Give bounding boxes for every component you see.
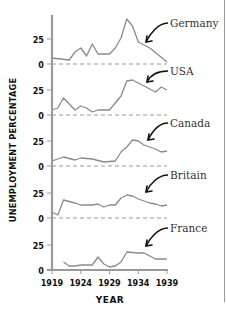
series-label-usa: USA	[170, 65, 194, 77]
y-tick-label: 0	[38, 266, 44, 276]
data-line-britain	[52, 195, 167, 215]
y-tick-label: 25	[33, 189, 45, 199]
y-axis-title: UNEMPLOYMENT PERCENTAGE	[8, 78, 18, 222]
pointer-arrow-icon	[148, 123, 168, 140]
chart-axes: 19191924192919341939YEARUNEMPLOYMENT PER…	[8, 15, 179, 305]
y-tick-label: 25	[33, 86, 45, 96]
y-tick-label: 0	[38, 60, 44, 70]
data-line-canada	[52, 140, 167, 162]
panel-usa: 025USA	[33, 65, 194, 121]
chart-canvas: 025Germany025USA025Canada025Britain025Fr…	[0, 0, 226, 312]
panel-britain: 025Britain	[33, 169, 207, 224]
panel-canada: 025Canada	[33, 117, 211, 172]
unemployment-chart: 025Germany025USA025Canada025Britain025Fr…	[0, 0, 226, 312]
x-tick-label: 1924	[69, 278, 92, 288]
y-tick-label: 0	[38, 111, 44, 121]
data-line-germany	[52, 19, 167, 62]
panel-germany: 025Germany	[33, 17, 219, 70]
pointer-arrow-icon	[146, 228, 168, 246]
x-tick-label: 1929	[98, 278, 121, 288]
y-tick-label: 25	[33, 35, 45, 45]
y-tick-label: 0	[38, 214, 44, 224]
series-label-germany: Germany	[170, 17, 219, 29]
x-tick-label: 1934	[127, 278, 150, 288]
chart-panels: 025Germany025USA025Canada025Britain025Fr…	[33, 17, 219, 276]
x-tick-label: 1919	[41, 278, 64, 288]
series-label-canada: Canada	[170, 117, 210, 129]
data-line-france	[64, 252, 168, 267]
y-tick-label: 0	[38, 162, 44, 172]
x-axis-title: YEAR	[95, 295, 125, 305]
series-label-france: France	[170, 222, 207, 234]
data-line-usa	[52, 80, 167, 112]
pointer-arrow-icon	[147, 71, 168, 82]
page-border-line	[224, 0, 225, 302]
x-tick-label: 1939	[156, 278, 179, 288]
panel-france: 025France	[33, 222, 208, 276]
series-label-britain: Britain	[170, 169, 207, 181]
y-tick-label: 25	[33, 241, 45, 251]
pointer-arrow-icon	[146, 23, 168, 42]
y-tick-label: 25	[33, 137, 45, 147]
pointer-arrow-icon	[146, 175, 168, 192]
